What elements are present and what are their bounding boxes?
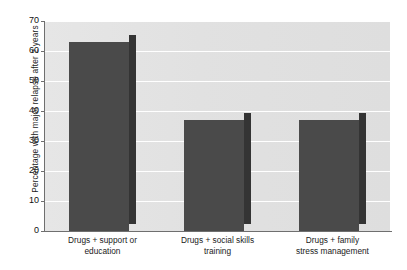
bar bbox=[184, 113, 251, 231]
y-tick-mark-30 bbox=[41, 141, 45, 142]
y-tick-mark-50 bbox=[41, 81, 45, 82]
bar-front-face bbox=[69, 42, 129, 231]
x-axis-line bbox=[43, 231, 392, 232]
y-tick-label-50: 50 bbox=[9, 76, 39, 85]
y-tick-label-30: 30 bbox=[9, 136, 39, 145]
x-axis-category-labels: Drugs + support oreducationDrugs + socia… bbox=[45, 235, 390, 269]
category-label-2: Drugs + familystress management bbox=[275, 235, 390, 257]
y-tick-mark-10 bbox=[41, 201, 45, 202]
relapse-bar-chart: Percentage with major relapse after 2 ye… bbox=[0, 0, 407, 270]
y-tick-label-0: 0 bbox=[9, 226, 39, 235]
y-tick-label-40: 40 bbox=[9, 106, 39, 115]
bar-front-face bbox=[184, 120, 244, 231]
gridline-70 bbox=[45, 21, 390, 22]
y-tick-mark-0 bbox=[41, 231, 45, 232]
y-tick-mark-20 bbox=[41, 171, 45, 172]
y-tick-mark-60 bbox=[41, 51, 45, 52]
y-axis-tick-labels: 010203040506070 bbox=[5, 0, 39, 270]
bar-front-face bbox=[299, 120, 359, 231]
category-label-1: Drugs + social skillstraining bbox=[160, 235, 275, 257]
y-tick-label-70: 70 bbox=[9, 16, 39, 25]
plot-area bbox=[45, 21, 390, 231]
y-tick-mark-70 bbox=[41, 21, 45, 22]
bar bbox=[299, 113, 366, 231]
y-tick-label-60: 60 bbox=[9, 46, 39, 55]
bar-side-face bbox=[129, 35, 136, 224]
y-tick-label-20: 20 bbox=[9, 166, 39, 175]
category-label-0: Drugs + support oreducation bbox=[45, 235, 160, 257]
y-tick-label-10: 10 bbox=[9, 196, 39, 205]
bar-side-face bbox=[359, 113, 366, 224]
bar-side-face bbox=[244, 113, 251, 224]
bar bbox=[69, 35, 136, 231]
y-tick-mark-40 bbox=[41, 111, 45, 112]
